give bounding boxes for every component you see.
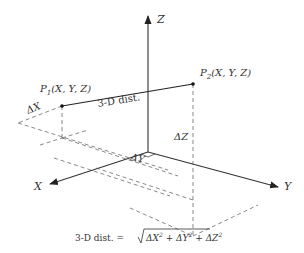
lower-parallel-2 — [96, 168, 193, 200]
p2-point — [191, 82, 195, 86]
p1-base-parallel — [62, 138, 178, 176]
z-axis-label: Z — [156, 13, 165, 26]
formula-lhs: 3-D dist. = — [75, 233, 124, 243]
diagram-canvas: Z X Y P1(X, Y, Z) P2(X, Y, Z) 3-D dist. … — [0, 0, 304, 253]
p2-label: P2(X, Y, Z) — [199, 67, 251, 81]
distance-formula: 3-D dist. = ΔX2 + ΔY2 + ΔZ2 — [75, 229, 222, 243]
formula-body: ΔX2 + ΔY2 + ΔZ2 — [145, 231, 222, 243]
distance-label: 3-D dist. — [97, 91, 141, 109]
p2-floor-right — [193, 205, 258, 236]
p1-base-short — [62, 130, 88, 138]
delta-z-label: ΔZ — [173, 131, 189, 142]
p1-label: P1(X, Y, Z) — [39, 83, 91, 97]
y-axis-label: Y — [284, 180, 293, 193]
delta-x-label: ΔX — [24, 100, 43, 116]
p1-base-extend — [40, 138, 62, 145]
dx-left-edge — [18, 123, 168, 170]
axes — [50, 16, 278, 187]
x-axis-label: X — [33, 180, 43, 193]
p1-point — [60, 104, 64, 108]
